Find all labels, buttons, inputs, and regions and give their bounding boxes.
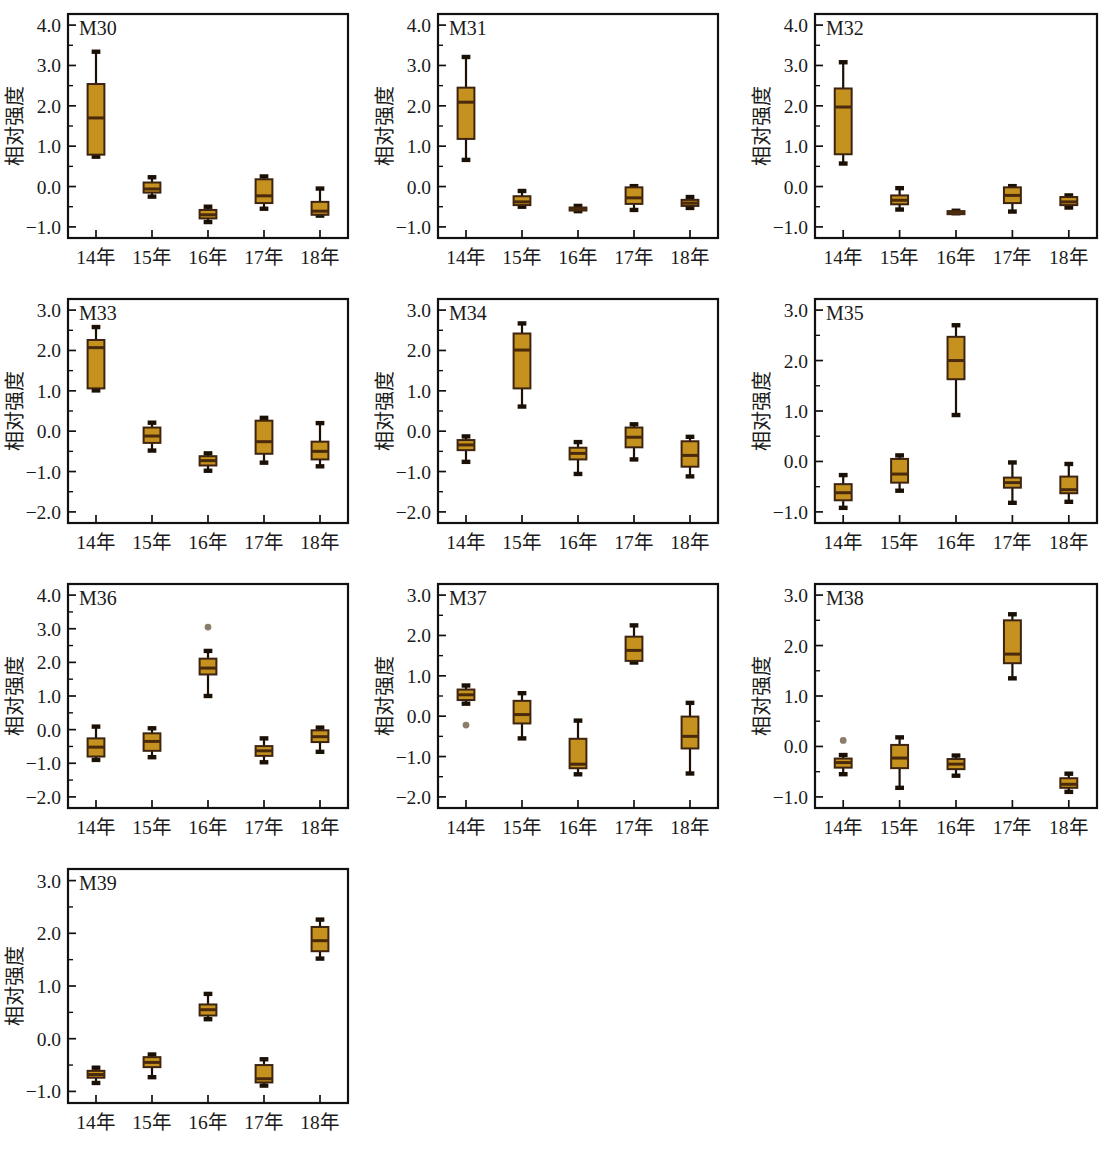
x-tick-label: 18年 xyxy=(670,247,710,268)
y-tick-label: 3.0 xyxy=(407,300,431,321)
plot-frame xyxy=(68,14,348,238)
box-iqr xyxy=(458,88,475,139)
y-tick-label: 0.0 xyxy=(37,1029,61,1050)
x-tick-label: 16年 xyxy=(558,817,598,838)
y-tick-label: −1.0 xyxy=(773,502,808,523)
y-tick-label: 0.0 xyxy=(37,177,61,198)
x-tick-label: 14年 xyxy=(823,532,863,553)
panel-title: M31 xyxy=(449,17,487,39)
box-group xyxy=(948,211,965,214)
x-tick-label: 14年 xyxy=(76,1112,116,1133)
x-tick-label: 15年 xyxy=(880,247,920,268)
y-tick-label: 3.0 xyxy=(37,300,61,321)
plot-frame xyxy=(68,299,348,523)
x-tick-label: 15年 xyxy=(880,532,920,553)
y-tick-label: 4.0 xyxy=(784,15,808,36)
box-iqr xyxy=(1004,620,1021,663)
y-tick-label: 0.0 xyxy=(784,177,808,198)
y-tick-label: −2.0 xyxy=(396,502,431,523)
panel-m33: −2.0−1.00.01.02.03.0相对强度M3314年15年16年17年1… xyxy=(0,285,370,570)
x-tick-label: 14年 xyxy=(76,817,116,838)
x-tick-label: 17年 xyxy=(614,532,654,553)
x-tick-label: 15年 xyxy=(502,247,542,268)
y-tick-label: 0.0 xyxy=(784,736,808,757)
x-tick-label: 18年 xyxy=(1049,532,1089,553)
panel-title: M38 xyxy=(826,587,864,609)
panel-title: M34 xyxy=(449,302,487,324)
box-iqr xyxy=(514,334,531,389)
y-axis-title: 相对强度 xyxy=(4,656,26,736)
x-tick-label: 17年 xyxy=(244,1112,284,1133)
x-tick-label: 17年 xyxy=(614,817,654,838)
y-tick-label: 4.0 xyxy=(37,15,61,36)
x-tick-label: 14年 xyxy=(823,247,863,268)
y-tick-label: 0.0 xyxy=(407,421,431,442)
y-tick-label: 0.0 xyxy=(37,421,61,442)
panel-m38: −1.00.01.02.03.0相对强度M3814年15年16年17年18年 xyxy=(740,570,1119,855)
panel-title: M39 xyxy=(79,872,117,894)
box-iqr xyxy=(256,421,273,454)
panel-grid: −1.00.01.02.03.04.0相对强度M3014年15年16年17年18… xyxy=(0,0,1119,1150)
box-iqr xyxy=(514,701,531,724)
box-group xyxy=(256,176,273,208)
panel-title: M36 xyxy=(79,587,117,609)
y-tick-label: 3.0 xyxy=(407,55,431,76)
x-tick-label: 16年 xyxy=(936,532,976,553)
panel-title: M35 xyxy=(826,302,864,324)
panel-title: M32 xyxy=(826,17,864,39)
y-tick-label: 2.0 xyxy=(784,96,808,117)
plot-frame xyxy=(438,299,718,523)
panel-m32: −1.00.01.02.03.04.0相对强度M3214年15年16年17年18… xyxy=(740,0,1119,285)
boxplot-svg: −1.00.01.02.03.0相对强度M3914年15年16年17年18年 xyxy=(0,855,370,1150)
x-tick-label: 18年 xyxy=(300,532,340,553)
y-tick-label: 4.0 xyxy=(37,585,61,606)
plot-frame xyxy=(815,14,1097,238)
x-tick-label: 18年 xyxy=(300,247,340,268)
boxplot-svg: −2.0−1.00.01.02.03.0相对强度M3414年15年16年17年1… xyxy=(370,285,740,570)
panel-title: M30 xyxy=(79,17,117,39)
panel-m39: −1.00.01.02.03.0相对强度M3914年15年16年17年18年 xyxy=(0,855,370,1150)
x-tick-label: 17年 xyxy=(244,532,284,553)
x-tick-label: 16年 xyxy=(188,1112,228,1133)
y-tick-label: 1.0 xyxy=(784,686,808,707)
y-tick-label: −2.0 xyxy=(26,787,61,808)
y-tick-label: 2.0 xyxy=(37,923,61,944)
y-tick-label: 0.0 xyxy=(407,177,431,198)
box-iqr xyxy=(682,717,699,749)
x-tick-label: 18年 xyxy=(1049,817,1089,838)
x-tick-label: 17年 xyxy=(244,817,284,838)
y-tick-label: −1.0 xyxy=(396,217,431,238)
boxplot-svg: −2.0−1.00.01.02.03.0相对强度M3714年15年16年17年1… xyxy=(370,570,740,855)
boxplot-svg: −1.00.01.02.03.04.0相对强度M3014年15年16年17年18… xyxy=(0,0,370,285)
outlier-point xyxy=(840,737,847,744)
y-tick-label: −2.0 xyxy=(26,502,61,523)
box-iqr xyxy=(312,927,329,951)
y-axis-title: 相对强度 xyxy=(374,656,396,736)
x-tick-label: 18年 xyxy=(670,532,710,553)
y-tick-label: 1.0 xyxy=(37,136,61,157)
boxplot-svg: −1.00.01.02.03.04.0相对强度M3114年15年16年17年18… xyxy=(370,0,740,285)
x-tick-label: 15年 xyxy=(880,817,920,838)
y-tick-label: 2.0 xyxy=(37,96,61,117)
box-iqr xyxy=(835,88,852,154)
x-tick-label: 14年 xyxy=(76,247,116,268)
x-tick-label: 14年 xyxy=(446,247,486,268)
boxplot-svg: −1.00.01.02.03.04.0相对强度M3214年15年16年17年18… xyxy=(740,0,1119,285)
boxplot-svg: −1.00.01.02.03.0相对强度M3514年15年16年17年18年 xyxy=(740,285,1119,570)
plot-frame xyxy=(68,869,348,1103)
box-group xyxy=(1060,195,1077,207)
box-iqr xyxy=(626,637,643,661)
y-axis-title: 相对强度 xyxy=(4,86,26,166)
boxplot-svg: −2.0−1.00.01.02.03.0相对强度M3314年15年16年17年1… xyxy=(0,285,370,570)
x-tick-label: 17年 xyxy=(244,247,284,268)
y-tick-label: 1.0 xyxy=(784,136,808,157)
x-tick-label: 16年 xyxy=(188,817,228,838)
x-tick-label: 18年 xyxy=(300,817,340,838)
y-axis-title: 相对强度 xyxy=(374,86,396,166)
y-tick-label: 0.0 xyxy=(37,720,61,741)
x-tick-label: 14年 xyxy=(446,532,486,553)
x-tick-label: 15年 xyxy=(132,247,172,268)
outlier-point xyxy=(463,722,470,729)
outlier-point xyxy=(205,624,212,631)
panel-m30: −1.00.01.02.03.04.0相对强度M3014年15年16年17年18… xyxy=(0,0,370,285)
